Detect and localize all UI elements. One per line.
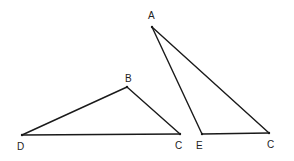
edge-dc: [22, 134, 180, 135]
vertex-c-left: [179, 133, 181, 135]
edge-db: [22, 87, 127, 135]
label-e: E: [196, 140, 203, 151]
label-a: A: [148, 10, 155, 21]
vertex-d: [21, 134, 23, 136]
label-d: D: [17, 141, 24, 152]
triangle-dbc: [21, 86, 181, 136]
geometry-diagram: A B D C E C: [0, 0, 294, 161]
edge-ae: [152, 27, 202, 134]
edge-bc: [127, 87, 180, 134]
label-c-right: C: [267, 139, 274, 150]
vertex-e: [201, 133, 203, 135]
edge-ac: [152, 27, 269, 133]
label-c-left: C: [175, 140, 182, 151]
triangle-aec: [151, 26, 270, 135]
vertex-a: [151, 26, 153, 28]
vertex-b: [126, 86, 128, 88]
vertex-c-right: [268, 132, 270, 134]
label-b: B: [125, 73, 132, 84]
edge-ec: [202, 133, 269, 134]
